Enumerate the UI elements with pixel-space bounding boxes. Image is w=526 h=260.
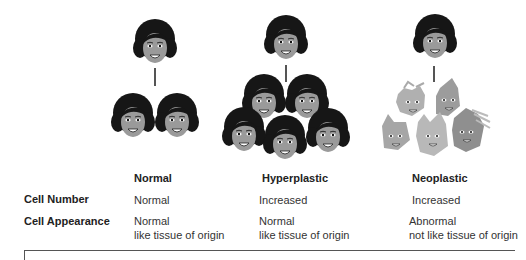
abnormal-cell-icon — [382, 114, 410, 150]
parent-cell-icon — [413, 14, 457, 58]
appearance-line-2: like tissue of origin — [259, 228, 350, 242]
column-header-neoplastic: Neoplastic — [412, 172, 468, 185]
cell-appearance-neoplastic: Abnormal not like tissue of origin — [409, 214, 518, 242]
abnormal-cell-icon — [436, 78, 460, 116]
appearance-line-2: not like tissue of origin — [409, 228, 518, 242]
cell-number-neoplastic: Increased — [412, 193, 460, 207]
cell-number-hyperplastic: Increased — [259, 193, 307, 207]
parent-cell-icon — [264, 15, 308, 59]
daughter-cell-icon — [111, 93, 155, 137]
cell-appearance-hyperplastic: Normal like tissue of origin — [259, 214, 350, 242]
daughter-cell-icon — [263, 115, 307, 159]
daughter-cell-icon — [155, 93, 199, 137]
column-header-normal: Normal — [134, 172, 172, 185]
row-label-cell-number: Cell Number — [24, 193, 89, 206]
cell-appearance-normal: Normal like tissue of origin — [134, 214, 225, 242]
row-label-cell-appearance: Cell Appearance — [24, 215, 110, 228]
parent-cell-icon — [133, 19, 177, 63]
cell-number-normal: Normal — [134, 193, 169, 207]
appearance-line-1: Normal — [134, 214, 225, 228]
abnormal-cell-icon — [416, 112, 448, 156]
appearance-line-1: Normal — [259, 214, 350, 228]
abnormal-cell-icon — [452, 108, 490, 152]
neoplastic-cell-group — [382, 14, 490, 156]
appearance-line-1: Abnormal — [409, 214, 518, 228]
appearance-line-2: like tissue of origin — [134, 228, 225, 242]
hyperplastic-cell-group — [222, 15, 350, 159]
column-header-hyperplastic: Hyperplastic — [262, 172, 328, 185]
cell-growth-illustration — [0, 0, 526, 170]
normal-cell-group — [111, 19, 199, 137]
abnormal-cell-icon — [396, 82, 425, 116]
frame-border — [24, 250, 515, 251]
frame-border-left — [24, 250, 25, 260]
